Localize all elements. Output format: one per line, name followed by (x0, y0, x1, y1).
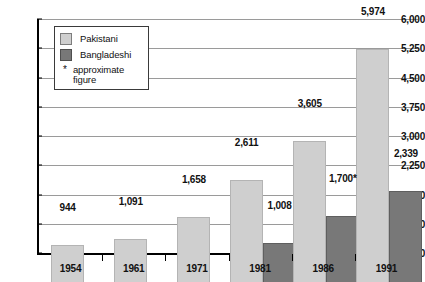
x-axis-tick-label-1981: 1981 (249, 263, 270, 274)
legend-label-pakistani: Pakistani (80, 34, 118, 44)
value-label-pakistani-1981: 2,611 (235, 137, 258, 148)
value-label-pakistani-1954: 944 (60, 202, 76, 213)
legend-swatch-bangladeshi (60, 49, 72, 61)
value-label-bangladeshi-1991: 2,339 (394, 148, 418, 159)
value-label-pakistani-1971: 1,658 (182, 174, 206, 185)
bar-chart: 07501,5002,2503,0003,7504,5005,2506,000 … (0, 0, 425, 282)
x-axis-tick-label-1986: 1986 (313, 263, 334, 274)
legend-footnote-text: approximate figure (73, 65, 144, 86)
x-axis-tick-label-1961: 1961 (123, 263, 144, 274)
value-label-pakistani-1961: 1,091 (119, 196, 143, 207)
gridline (39, 19, 418, 20)
legend-item-pakistani: Pakistani (60, 31, 144, 46)
value-label-bangladeshi-1981: 1,008 (268, 200, 292, 211)
chart-legend: Pakistani Bangladeshi * approximate figu… (54, 26, 149, 90)
x-axis-tick-mark (292, 254, 293, 261)
asterisk-icon: * (63, 65, 67, 86)
legend-label-bangladeshi: Bangladeshi (80, 50, 131, 60)
bar-pakistani-1961 (114, 239, 147, 282)
y-axis-tick-label: 6,000 (391, 14, 425, 25)
x-axis-tick-label-1971: 1971 (186, 263, 207, 274)
x-axis-tick-mark (102, 254, 103, 261)
x-axis-tick-label-1954: 1954 (60, 263, 81, 274)
legend-item-bangladeshi: Bangladeshi (60, 47, 144, 62)
legend-swatch-pakistani (60, 33, 72, 45)
value-label-pakistani-1986: 3,605 (298, 98, 322, 109)
value-label-bangladeshi-1986: 1,700* (329, 173, 357, 184)
bar-pakistani-1986 (293, 141, 326, 282)
value-label-pakistani-1991: 5,974 (361, 6, 385, 17)
legend-footnote: * approximate figure (60, 65, 144, 86)
x-axis-tick-mark (355, 254, 356, 261)
x-axis-tick-label-1991: 1991 (376, 263, 397, 274)
bar-pakistani-1991 (356, 49, 389, 282)
x-axis-tick-mark (229, 254, 230, 261)
x-axis-tick-mark (165, 254, 166, 261)
